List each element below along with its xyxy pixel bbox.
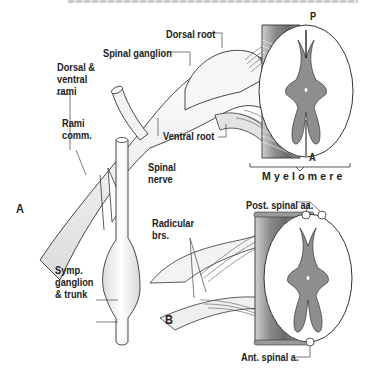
label-rami-comm: Rami comm. <box>62 117 92 141</box>
label-post-spinal-aa: Post. spinal aa. <box>246 199 313 211</box>
panel-a-letter: A <box>16 203 24 215</box>
label-myelomere: Myelomere <box>262 170 346 182</box>
label-dorsal-ventral-rami: Dorsal & ventral rami <box>57 61 95 97</box>
label-ventral-root: Ventral root <box>163 130 214 142</box>
label-spinal-ganglion: Spinal ganglion <box>103 47 172 59</box>
label-radicular-brs: Radicular brs. <box>152 217 194 241</box>
label-dorsal-root: Dorsal root <box>166 28 215 40</box>
diagram-artwork <box>0 0 368 368</box>
spinal-nerve-diagram: P Dorsal root Spinal ganglion Dorsal & v… <box>0 0 368 368</box>
label-ant-spinal-a: Ant. spinal a. <box>241 351 299 363</box>
panel-b-letter: B <box>165 314 173 326</box>
posterior-marker: P <box>310 10 316 22</box>
label-symp-ganglion-trunk: Symp. ganglion & trunk <box>55 264 94 300</box>
label-spinal-nerve: Spinal nerve <box>148 161 176 185</box>
anterior-marker: A <box>309 151 316 163</box>
